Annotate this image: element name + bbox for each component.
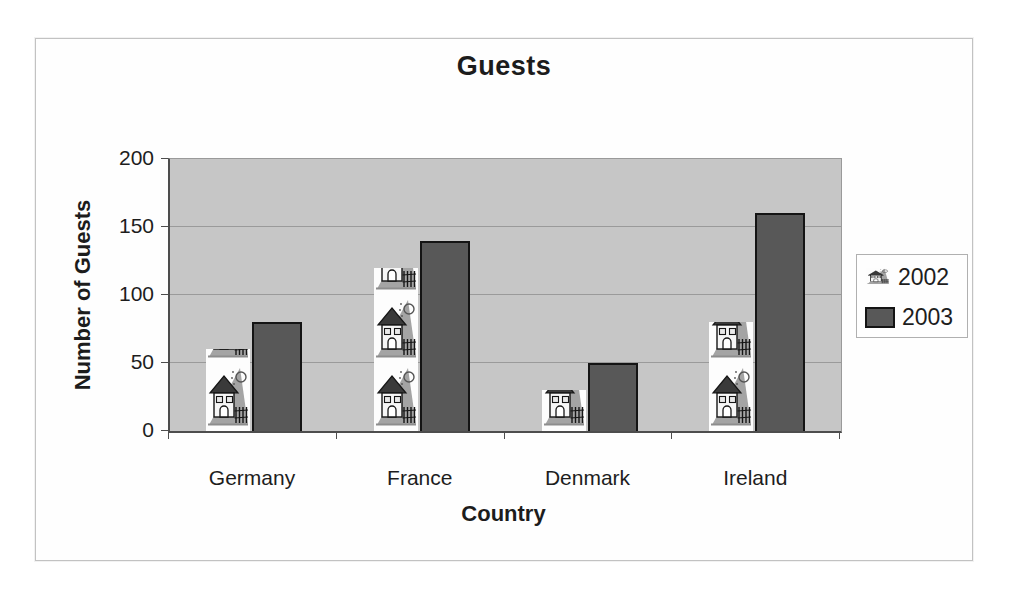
legend-item-2002: 2002 [865, 265, 959, 289]
bar-2003-denmark [588, 363, 638, 431]
plot-area [168, 158, 842, 433]
house-tile-icon [709, 322, 753, 363]
x-category-label-ireland: Ireland [671, 466, 839, 490]
x-tick-mark-0 [168, 432, 169, 439]
bar-2003-germany [252, 322, 302, 431]
y-tick-mark-150 [161, 226, 168, 227]
y-tick-mark-100 [161, 294, 168, 295]
y-tick-label-150: 150 [70, 215, 154, 236]
y-tick-label-100: 100 [70, 283, 154, 304]
bar-2002-denmark [542, 390, 586, 431]
house-tile-icon [206, 349, 250, 363]
legend-label-2003: 2003 [902, 305, 953, 329]
bar-2003-ireland [755, 213, 805, 431]
bar-2002-germany [206, 349, 250, 431]
house-picture-icon [865, 268, 891, 286]
y-tick-mark-50 [161, 362, 168, 363]
gridline-100 [170, 294, 841, 295]
y-tick-label-200: 200 [70, 147, 154, 168]
bar-2003-france [420, 241, 470, 431]
y-tick-label-0: 0 [70, 419, 154, 440]
house-tile-icon [374, 363, 418, 431]
x-category-label-germany: Germany [168, 466, 336, 490]
y-tick-label-50: 50 [70, 351, 154, 372]
x-tick-mark-4 [839, 432, 840, 439]
y-tick-mark-0 [161, 430, 168, 431]
dark-square-swatch-icon [865, 307, 895, 328]
bar-2002-france [374, 268, 418, 431]
scanned-page-background: Guests Number of Guests 050100150200 Ger… [0, 0, 1011, 597]
house-tile-icon [374, 268, 418, 295]
house-tile-icon [206, 363, 250, 431]
house-tile-icon [709, 363, 753, 431]
chart-title: Guests [36, 51, 972, 82]
x-category-label-denmark: Denmark [504, 466, 672, 490]
gridline-150 [170, 226, 841, 227]
x-tick-mark-3 [671, 432, 672, 439]
bar-2002-ireland [709, 322, 753, 431]
legend-label-2002: 2002 [898, 265, 949, 289]
x-tick-mark-1 [336, 432, 337, 439]
chart-frame: Guests Number of Guests 050100150200 Ger… [35, 38, 973, 561]
y-tick-mark-200 [161, 158, 168, 159]
legend: 2002 2003 [856, 254, 968, 338]
x-axis-title: Country [168, 501, 839, 527]
legend-item-2003: 2003 [865, 305, 959, 329]
x-category-label-france: France [336, 466, 504, 490]
x-tick-mark-2 [504, 432, 505, 439]
house-tile-icon [374, 295, 418, 363]
house-tile-icon [542, 390, 586, 431]
